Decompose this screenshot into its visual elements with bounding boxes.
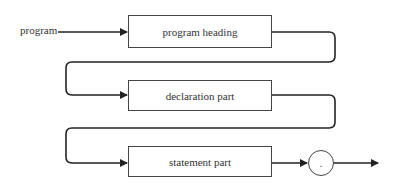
node-program-heading: program heading bbox=[128, 15, 272, 48]
terminal-label: . bbox=[320, 158, 323, 169]
node-statement-part: statement part bbox=[128, 146, 272, 177]
node-label: program heading bbox=[163, 26, 238, 38]
terminal-period: . bbox=[308, 150, 334, 176]
entry-label: program bbox=[20, 24, 57, 36]
node-declaration-part: declaration part bbox=[128, 80, 272, 111]
node-label: declaration part bbox=[166, 90, 235, 102]
node-label: statement part bbox=[169, 156, 231, 168]
